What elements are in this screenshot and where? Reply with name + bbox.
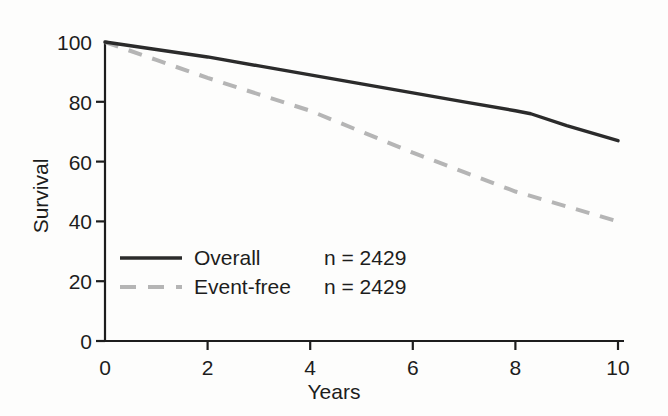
legend-label-event-free: Event-free [194, 275, 324, 299]
y-tick-label: 100 [30, 32, 92, 53]
chart-legend: Overall n = 2429 Event-free n = 2429 [120, 243, 406, 301]
x-tick-label: 0 [99, 357, 111, 378]
legend-count-overall: n = 2429 [324, 246, 406, 270]
y-tick-label: 20 [30, 271, 92, 292]
legend-item-overall: Overall n = 2429 [120, 243, 406, 272]
y-tick-label: 0 [30, 331, 92, 352]
x-tick-label: 10 [606, 357, 629, 378]
x-axis-title: Years [0, 380, 668, 404]
y-axis-title: Survival [29, 159, 53, 234]
legend-swatch-solid-icon [120, 251, 182, 265]
legend-label-overall: Overall [194, 246, 324, 270]
x-tick-label: 2 [202, 357, 214, 378]
chart-figure: 020406080100 0246810 Survival Years Over… [0, 0, 668, 416]
series-line-event-free [105, 42, 618, 221]
x-tick-label: 6 [407, 357, 419, 378]
series-group [105, 42, 618, 221]
legend-swatch-dashed-icon [120, 280, 182, 294]
survival-line-chart [0, 0, 668, 416]
x-tick-label: 4 [304, 357, 316, 378]
legend-item-event-free: Event-free n = 2429 [120, 272, 406, 301]
legend-count-event-free: n = 2429 [324, 275, 406, 299]
series-line-overall [105, 42, 618, 141]
y-tick-label: 80 [30, 91, 92, 112]
x-axis-ticks [208, 341, 618, 350]
y-axis-ticks [96, 102, 105, 341]
x-tick-label: 8 [510, 357, 522, 378]
